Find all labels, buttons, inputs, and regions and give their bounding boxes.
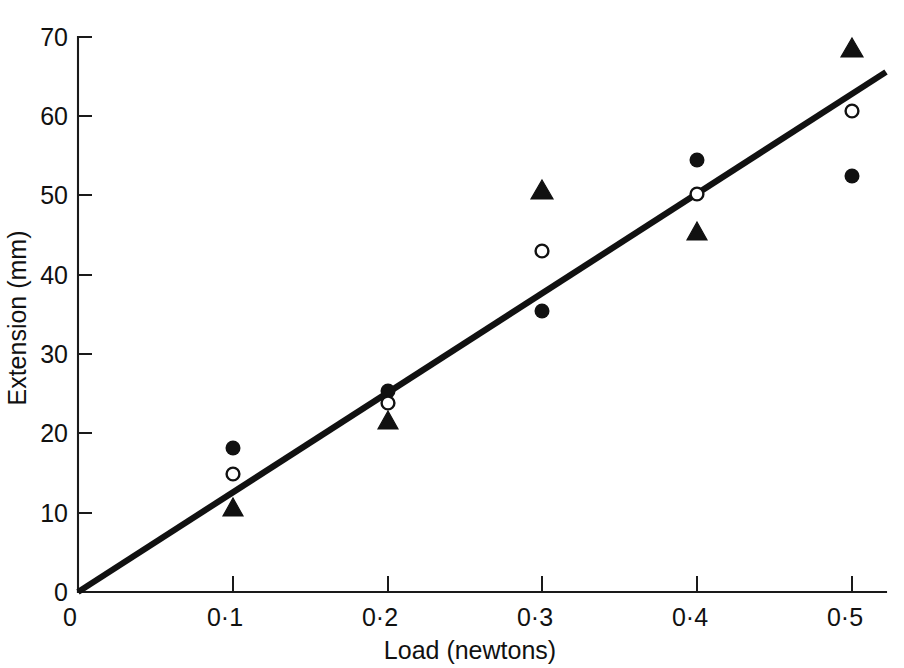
- y-tick-label-70: 70: [40, 23, 68, 51]
- y-tick-label-60: 60: [40, 102, 68, 130]
- chart-figure: 70 60 50 40 30 20 10 0 0 0·1 0·2 0·3 0·4…: [0, 0, 904, 668]
- data-point-marker: [223, 498, 243, 516]
- y-tick-label-20: 20: [40, 419, 68, 447]
- data-point-marker: [845, 169, 860, 184]
- x-axis-ticks: [233, 576, 852, 592]
- y-axis-ticks: [78, 37, 92, 513]
- y-tick-label-10: 10: [40, 499, 68, 527]
- data-point-marker: [226, 441, 241, 456]
- data-point-marker: [536, 245, 549, 258]
- x-axis-title: Load (newtons): [384, 636, 556, 664]
- data-point-marker: [535, 304, 550, 319]
- data-point-marker: [687, 222, 707, 240]
- y-tick-label-0: 0: [54, 578, 68, 606]
- y-tick-label-30: 30: [40, 340, 68, 368]
- data-point-marker: [690, 153, 705, 168]
- axes-group: [78, 37, 886, 592]
- data-point-marker: [227, 468, 240, 481]
- y-tick-label-50: 50: [40, 181, 68, 209]
- x-tick-label-0.4: 0·4: [672, 603, 708, 631]
- x-tick-label-0: 0: [63, 603, 77, 631]
- data-point-marker: [531, 180, 553, 199]
- x-tick-label-0.2: 0·2: [362, 603, 398, 631]
- series-filled-triangle: [223, 38, 863, 516]
- y-tick-label-40: 40: [40, 261, 68, 289]
- best-fit-line: [78, 72, 886, 592]
- data-point-marker: [846, 105, 859, 118]
- y-axis-tick-labels: 70 60 50 40 30 20 10 0: [40, 23, 68, 606]
- x-tick-label-0.1: 0·1: [207, 603, 243, 631]
- data-point-marker: [841, 38, 863, 57]
- data-point-marker: [691, 188, 704, 201]
- data-point-marker: [382, 397, 395, 410]
- y-axis-title: Extension (mm): [3, 230, 31, 405]
- x-axis-tick-labels: 0 0·1 0·2 0·3 0·4 0·5: [63, 603, 863, 631]
- x-tick-label-0.3: 0·3: [517, 603, 553, 631]
- scatter-plot-svg: 70 60 50 40 30 20 10 0 0 0·1 0·2 0·3 0·4…: [0, 0, 904, 668]
- x-tick-label-0.5: 0·5: [827, 603, 863, 631]
- data-point-marker: [378, 411, 398, 429]
